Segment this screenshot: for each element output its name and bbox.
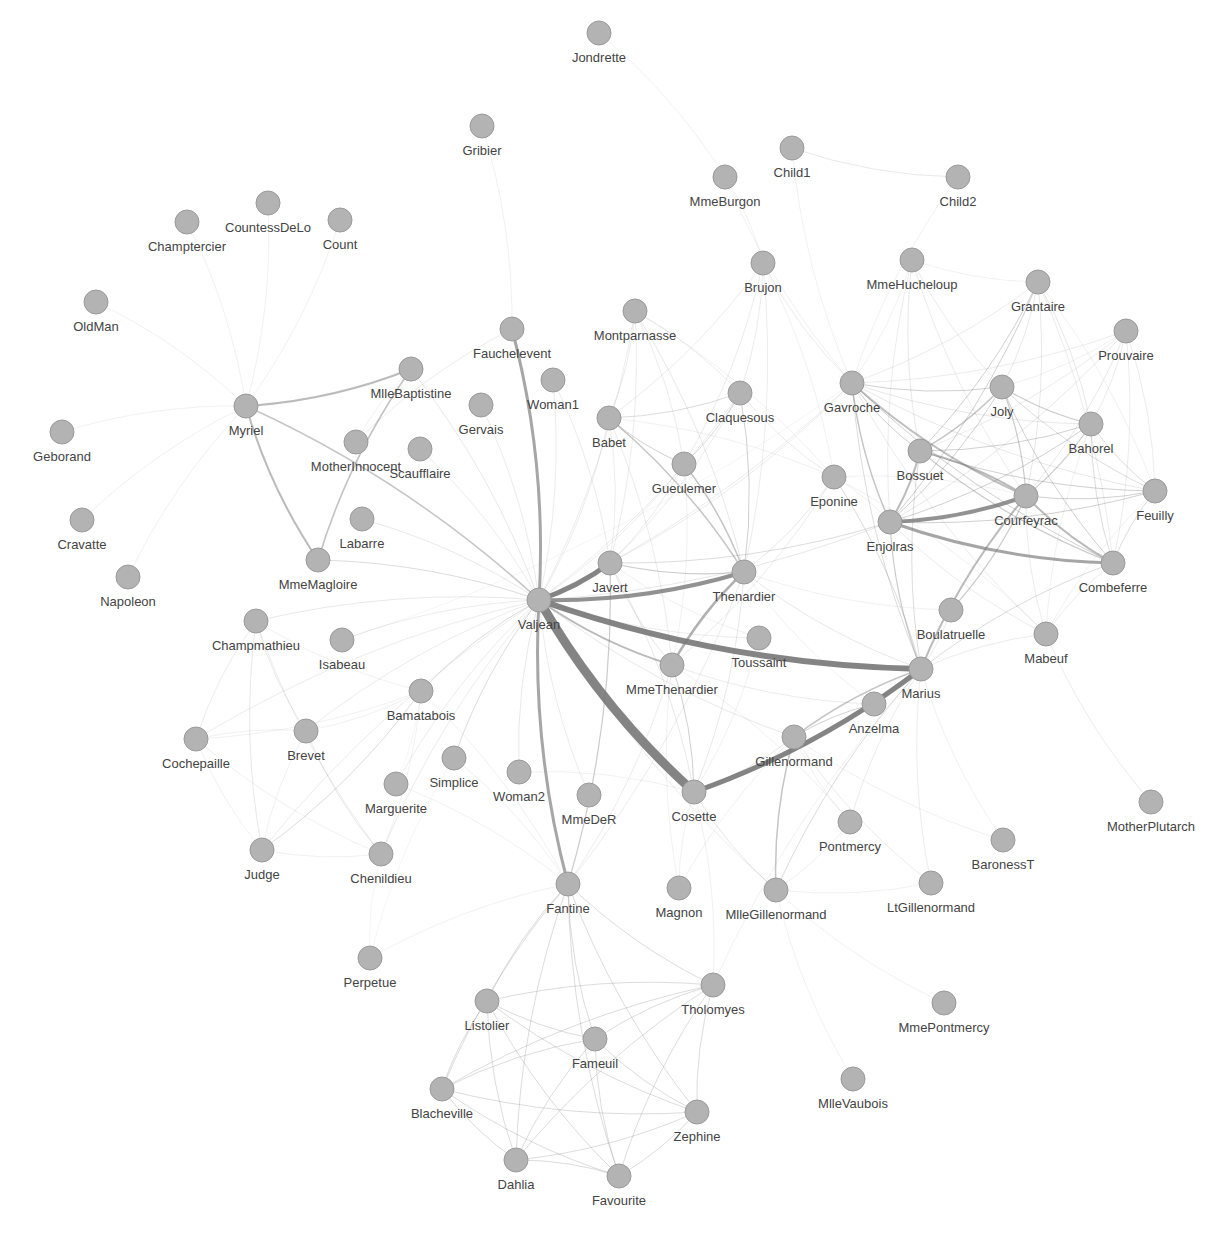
node-gavroche[interactable]: Gavroche bbox=[824, 371, 880, 415]
node-circle[interactable] bbox=[1114, 319, 1138, 343]
node-blacheville[interactable]: Blacheville bbox=[411, 1077, 473, 1121]
node-circle[interactable] bbox=[990, 375, 1014, 399]
node-circle[interactable] bbox=[583, 1027, 607, 1051]
node-baronesst[interactable]: BaronessT bbox=[972, 828, 1035, 872]
node-circle[interactable] bbox=[430, 1077, 454, 1101]
node-marguerite[interactable]: Marguerite bbox=[365, 772, 427, 816]
node-motherplutarch[interactable]: MotherPlutarch bbox=[1107, 790, 1195, 834]
node-gillenormand[interactable]: Gillenormand bbox=[755, 725, 832, 769]
node-circle[interactable] bbox=[682, 780, 706, 804]
node-circle[interactable] bbox=[751, 251, 775, 275]
node-circle[interactable] bbox=[70, 508, 94, 532]
node-circle[interactable] bbox=[469, 393, 493, 417]
node-dahlia[interactable]: Dahlia bbox=[498, 1148, 536, 1192]
node-circle[interactable] bbox=[919, 871, 943, 895]
node-woman2[interactable]: Woman2 bbox=[493, 760, 545, 804]
node-circle[interactable] bbox=[1139, 790, 1163, 814]
node-fauchelevent[interactable]: Fauchelevent bbox=[473, 317, 551, 361]
node-circle[interactable] bbox=[840, 371, 864, 395]
node-circle[interactable] bbox=[442, 746, 466, 770]
node-thenardier[interactable]: Thenardier bbox=[713, 560, 777, 604]
node-circle[interactable] bbox=[408, 437, 432, 461]
node-circle[interactable] bbox=[577, 783, 601, 807]
node-circle[interactable] bbox=[244, 609, 268, 633]
node-circle[interactable] bbox=[838, 810, 862, 834]
node-judge[interactable]: Judge bbox=[244, 838, 279, 882]
node-circle[interactable] bbox=[623, 299, 647, 323]
node-circle[interactable] bbox=[369, 842, 393, 866]
node-circle[interactable] bbox=[175, 210, 199, 234]
node-gueulemer[interactable]: Gueulemer bbox=[652, 452, 717, 496]
node-mllegillenormand[interactable]: MlleGillenormand bbox=[725, 878, 826, 922]
node-circle[interactable] bbox=[541, 368, 565, 392]
node-circle[interactable] bbox=[328, 208, 352, 232]
node-bamatabois[interactable]: Bamatabois bbox=[387, 679, 456, 723]
node-circle[interactable] bbox=[587, 21, 611, 45]
node-circle[interactable] bbox=[1034, 622, 1058, 646]
node-combeferre[interactable]: Combeferre bbox=[1079, 551, 1148, 595]
node-bossuet[interactable]: Bossuet bbox=[897, 439, 944, 483]
node-labarre[interactable]: Labarre bbox=[340, 507, 385, 551]
node-motherinnocent[interactable]: MotherInnocent bbox=[311, 430, 402, 474]
node-circle[interactable] bbox=[1026, 270, 1050, 294]
node-circle[interactable] bbox=[306, 548, 330, 572]
node-prouvaire[interactable]: Prouvaire bbox=[1098, 319, 1154, 363]
node-circle[interactable] bbox=[685, 1100, 709, 1124]
node-circle[interactable] bbox=[780, 136, 804, 160]
node-circle[interactable] bbox=[909, 657, 933, 681]
node-circle[interactable] bbox=[256, 191, 280, 215]
node-child2[interactable]: Child2 bbox=[940, 165, 977, 209]
node-bahorel[interactable]: Bahorel bbox=[1069, 412, 1114, 456]
node-cravatte[interactable]: Cravatte bbox=[57, 508, 106, 552]
node-circle[interactable] bbox=[862, 692, 886, 716]
node-mmeder[interactable]: MmeDeR bbox=[562, 783, 617, 827]
node-fantine[interactable]: Fantine bbox=[546, 872, 589, 916]
node-circle[interactable] bbox=[294, 719, 318, 743]
node-woman1[interactable]: Woman1 bbox=[527, 368, 579, 412]
node-circle[interactable] bbox=[900, 248, 924, 272]
node-circle[interactable] bbox=[597, 406, 621, 430]
node-gervais[interactable]: Gervais bbox=[459, 393, 504, 437]
node-circle[interactable] bbox=[350, 507, 374, 531]
node-mllevaubois[interactable]: MlleVaubois bbox=[818, 1067, 888, 1111]
node-circle[interactable] bbox=[344, 430, 368, 454]
node-circle[interactable] bbox=[660, 653, 684, 677]
node-circle[interactable] bbox=[878, 510, 902, 534]
node-mmeburgon[interactable]: MmeBurgon bbox=[690, 165, 761, 209]
node-champmathieu[interactable]: Champmathieu bbox=[212, 609, 300, 653]
node-circle[interactable] bbox=[732, 560, 756, 584]
node-child1[interactable]: Child1 bbox=[774, 136, 811, 180]
node-circle[interactable] bbox=[556, 872, 580, 896]
node-circle[interactable] bbox=[234, 394, 258, 418]
node-myriel[interactable]: Myriel bbox=[229, 394, 264, 438]
node-tholomyes[interactable]: Tholomyes bbox=[681, 973, 745, 1017]
node-circle[interactable] bbox=[932, 991, 956, 1015]
node-circle[interactable] bbox=[713, 165, 737, 189]
node-eponine[interactable]: Eponine bbox=[810, 465, 858, 509]
node-champtercier[interactable]: Champtercier bbox=[148, 210, 227, 254]
node-brevet[interactable]: Brevet bbox=[287, 719, 325, 763]
node-circle[interactable] bbox=[475, 989, 499, 1013]
node-mabeuf[interactable]: Mabeuf bbox=[1024, 622, 1068, 666]
node-circle[interactable] bbox=[384, 772, 408, 796]
node-circle[interactable] bbox=[1014, 484, 1038, 508]
node-fameuil[interactable]: Fameuil bbox=[572, 1027, 618, 1071]
node-mmemagloire[interactable]: MmeMagloire bbox=[279, 548, 358, 592]
node-montparnasse[interactable]: Montparnasse bbox=[594, 299, 676, 343]
node-magnon[interactable]: Magnon bbox=[656, 876, 703, 920]
node-cochepaille[interactable]: Cochepaille bbox=[162, 727, 230, 771]
node-circle[interactable] bbox=[701, 973, 725, 997]
node-chenildieu[interactable]: Chenildieu bbox=[350, 842, 411, 886]
node-circle[interactable] bbox=[184, 727, 208, 751]
node-circle[interactable] bbox=[500, 317, 524, 341]
node-geborand[interactable]: Geborand bbox=[33, 420, 91, 464]
node-circle[interactable] bbox=[1101, 551, 1125, 575]
node-circle[interactable] bbox=[399, 357, 423, 381]
node-circle[interactable] bbox=[250, 838, 274, 862]
node-joly[interactable]: Joly bbox=[990, 375, 1014, 419]
node-circle[interactable] bbox=[667, 876, 691, 900]
node-countessdelo[interactable]: CountessDeLo bbox=[225, 191, 311, 235]
node-isabeau[interactable]: Isabeau bbox=[319, 628, 365, 672]
node-perpetue[interactable]: Perpetue bbox=[344, 946, 397, 990]
node-circle[interactable] bbox=[330, 628, 354, 652]
